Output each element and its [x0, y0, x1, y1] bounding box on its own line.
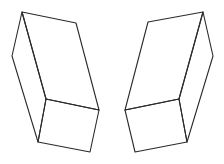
- right-box-top-face: [125, 12, 203, 110]
- right-box-side-face: [179, 12, 213, 142]
- diagram-canvas: [0, 0, 224, 164]
- right-box-end-face: [125, 99, 187, 152]
- right-box: [125, 12, 213, 152]
- left-box-end-face: [38, 99, 99, 152]
- left-box: [12, 12, 99, 152]
- left-box-side-face: [12, 12, 46, 142]
- left-box-top-face: [22, 12, 99, 110]
